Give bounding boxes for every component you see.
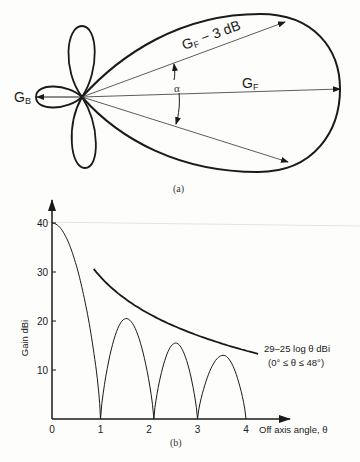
scan-artifact-line — [40, 222, 360, 226]
polar-diagram: GB GF GF − 3 dB α (a) — [14, 14, 340, 195]
x-tick-label: 1 — [98, 424, 104, 435]
beamwidth-arc-upper — [174, 64, 175, 80]
caption-b: (b) — [170, 437, 182, 449]
x-tick-label: 2 — [146, 424, 152, 435]
forward-gain-label: GF — [242, 75, 259, 92]
figure: GB GF GF − 3 dB α (a) 10203040 01234 Gai… — [0, 0, 360, 462]
y-axis-label: Gain dBi — [19, 320, 30, 356]
sidelobe-curve — [154, 343, 198, 419]
envelope-annotation: 29–25 log θ dBi — [264, 343, 330, 354]
envelope-range-annotation: (0° ≤ θ ≤ 48°) — [268, 357, 324, 368]
beamwidth-label: α — [174, 82, 180, 94]
envelope-curve — [94, 269, 258, 354]
sidelobe-curve — [101, 319, 154, 419]
x-tick-label: 0 — [49, 424, 55, 435]
half-power-label: GF − 3 dB — [180, 17, 243, 54]
y-tick-label: 40 — [37, 218, 49, 229]
y-tick-label: 10 — [37, 365, 49, 376]
sidelobe-curve — [198, 355, 247, 419]
y-tick-label: 20 — [37, 316, 49, 327]
x-axis-label: Off axis angle, θ — [259, 424, 327, 435]
y-tick-label: 30 — [37, 267, 49, 278]
main-beam-curve — [52, 223, 101, 419]
caption-a: (a) — [173, 183, 184, 195]
x-tick-label: 4 — [243, 424, 249, 435]
gain-chart: 10203040 01234 Gain dBi Off axis angle, … — [19, 200, 330, 449]
beamwidth-arc-lower — [176, 93, 179, 124]
x-tick-label: 3 — [195, 424, 201, 435]
half-power-lower-arrow — [82, 97, 288, 162]
back-gain-label: GB — [14, 89, 31, 106]
forward-gain-arrow — [82, 89, 340, 97]
